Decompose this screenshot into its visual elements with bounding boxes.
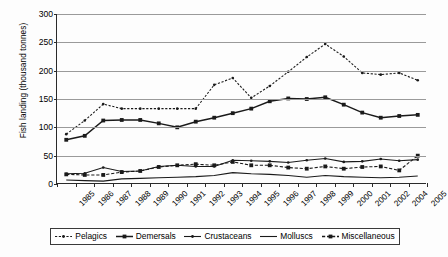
legend-marker-icon	[55, 232, 72, 241]
x-axis-tick-label: 1988	[133, 189, 152, 208]
data-point	[101, 119, 105, 123]
data-point	[361, 72, 364, 75]
data-point	[231, 77, 234, 80]
legend-marker-icon	[322, 232, 339, 241]
data-point	[64, 138, 68, 142]
y-axis-tick-mark	[54, 71, 57, 72]
data-point	[416, 158, 419, 161]
series-demersals	[64, 95, 419, 141]
y-axis-tick-mark	[54, 156, 57, 157]
data-point	[194, 120, 198, 124]
data-point	[101, 173, 105, 177]
data-point	[379, 116, 383, 120]
data-point	[194, 162, 198, 166]
chart-figure: Fish landing (thousand tonnes) 050100150…	[0, 0, 448, 257]
y-axis-tick-label: 150	[39, 94, 53, 104]
series-line	[66, 156, 418, 175]
x-axis-tick-mark	[113, 183, 114, 187]
data-point	[83, 173, 87, 177]
data-point	[268, 160, 271, 163]
data-point	[250, 159, 253, 162]
data-point	[324, 157, 327, 160]
x-axis-tick-label: 2004	[411, 189, 430, 208]
legend-marker-icon	[260, 232, 277, 241]
legend-label: Crustaceans	[204, 232, 251, 240]
data-point	[102, 103, 105, 106]
data-point	[342, 55, 345, 58]
data-point	[120, 118, 124, 122]
data-point	[287, 161, 290, 164]
y-axis-tick-label: 0	[48, 179, 53, 189]
x-axis-tick-label: 2000	[355, 189, 374, 208]
data-point	[305, 56, 308, 59]
x-axis-tick-mark	[57, 183, 58, 187]
data-point	[83, 134, 87, 138]
x-axis-tick-mark	[261, 183, 262, 187]
x-axis-tick-mark	[242, 183, 243, 187]
x-axis-tick-mark	[279, 183, 280, 187]
legend-item-molluscs[interactable]: Molluscs	[260, 232, 313, 241]
data-point	[286, 166, 290, 170]
x-axis-tick-mark	[372, 183, 373, 187]
data-point	[157, 107, 160, 110]
data-point	[342, 167, 346, 171]
data-point	[305, 167, 309, 171]
y-axis-tick-label: 250	[39, 37, 53, 47]
x-axis-tick-label: 1995	[263, 189, 282, 208]
gridline	[57, 71, 426, 72]
legend-item-miscellaneous[interactable]: Miscellaneous	[322, 232, 395, 241]
x-axis-tick-label: 1994	[244, 189, 263, 208]
series-line	[66, 173, 418, 182]
x-axis-tick-mark	[131, 183, 132, 187]
x-axis-tick-mark	[409, 183, 410, 187]
data-point	[268, 163, 272, 167]
x-axis-tick-mark	[353, 183, 354, 187]
data-point	[212, 163, 216, 167]
y-axis-title: Fish landing (thousand tonnes)	[19, 0, 28, 166]
data-point	[83, 119, 86, 122]
data-point	[342, 103, 346, 107]
legend-label: Molluscs	[280, 232, 313, 240]
data-point	[416, 113, 420, 117]
x-axis-tick-label: 1987	[115, 189, 134, 208]
data-point	[194, 107, 197, 110]
legend-item-crustaceans[interactable]: Crustaceans	[184, 232, 251, 241]
data-point	[416, 79, 419, 82]
x-axis-tick-mark	[168, 183, 169, 187]
legend-marker-icon	[184, 232, 201, 241]
x-axis-tick-label: 1998	[318, 189, 337, 208]
x-axis-tick-mark	[224, 183, 225, 187]
series-molluscs	[66, 173, 418, 182]
data-point	[323, 165, 327, 169]
y-axis-tick-label: 200	[39, 66, 53, 76]
data-point	[249, 163, 253, 167]
data-point	[212, 116, 216, 120]
legend-label: Miscellaneous	[342, 232, 395, 240]
x-axis-tick-mark	[427, 183, 428, 187]
y-axis-tick-label: 50	[43, 151, 53, 161]
plot-area: 0501001502002503001985198619871988198919…	[56, 14, 426, 184]
data-point	[342, 161, 345, 164]
data-point	[231, 160, 235, 164]
legend-item-pelagics[interactable]: Pelagics	[55, 232, 107, 241]
y-axis-tick-mark	[54, 99, 57, 100]
data-point	[138, 169, 142, 173]
x-axis-tick-mark	[390, 183, 391, 187]
legend-item-demersals[interactable]: Demersals	[116, 232, 176, 241]
gridline	[57, 127, 426, 128]
data-point	[398, 159, 401, 162]
y-axis-tick-label: 300	[39, 9, 53, 19]
gridline	[57, 99, 426, 100]
x-axis-tick-label: 1997	[300, 189, 319, 208]
x-axis-tick-label: 2005	[429, 189, 448, 208]
gridline	[57, 42, 426, 43]
data-point	[361, 160, 364, 163]
data-point	[65, 133, 68, 136]
y-axis-tick-label: 100	[39, 122, 53, 132]
y-axis-tick-mark	[54, 42, 57, 43]
y-axis-tick-mark	[54, 14, 57, 15]
legend-label: Pelagics	[75, 232, 107, 240]
x-axis-tick-mark	[76, 183, 77, 187]
x-axis-tick-label: 1992	[207, 189, 226, 208]
series-line	[66, 159, 418, 174]
